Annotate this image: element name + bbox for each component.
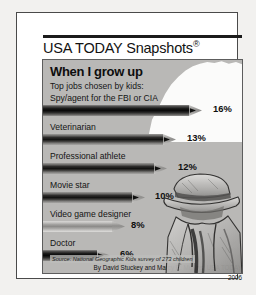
snapshot-page: USA TODAY Snapshots® When I grow up Top … — [0, 0, 256, 295]
chart-panel: When I grow up Top jobs chosen by kids: … — [42, 59, 243, 274]
bar-shaft — [43, 134, 163, 145]
bar-category-label: Movie star — [50, 180, 90, 190]
bar-category-label: Professional athlete — [50, 151, 125, 161]
table-row: Veterinarian 13% — [43, 122, 242, 151]
bar-category-label: Doctor — [50, 238, 75, 248]
brand-rule — [43, 35, 242, 38]
bar-value-label: 8% — [131, 219, 145, 230]
bar-veterinarian — [43, 134, 163, 145]
bar-spy — [43, 105, 189, 116]
registered-mark-icon: ® — [193, 39, 199, 49]
bar-shaft — [43, 163, 154, 174]
byline-year: 2006 — [94, 273, 242, 283]
brand-name: USA TODAY Snapshots — [43, 40, 193, 56]
bar-category-label: Veterinarian — [50, 122, 96, 132]
chart-subtitle: Top jobs chosen by kids: — [50, 81, 144, 91]
bar-value-label: 10% — [155, 190, 174, 201]
infographic-frame: USA TODAY Snapshots® When I grow up Top … — [16, 12, 238, 279]
bar-professional-athlete — [43, 163, 154, 174]
bar-value-label: 13% — [187, 132, 206, 143]
bar-shaft — [43, 221, 112, 232]
bar-category-label: Video game designer — [50, 209, 131, 219]
table-row: Spy/agent for the FBI or CIA 16% — [43, 93, 242, 122]
chart-title: When I grow up — [50, 64, 143, 79]
bar-shaft — [43, 192, 132, 203]
bar-category-label: Spy/agent for the FBI or CIA — [50, 93, 158, 103]
bar-shaft — [43, 105, 189, 116]
chart-source: Source: National Geographic Kids survey … — [50, 255, 195, 263]
bar-movie-star — [43, 192, 132, 203]
pencil-tip-icon — [112, 221, 125, 232]
bar-value-label: 16% — [213, 103, 232, 114]
bar-value-label: 12% — [178, 161, 197, 172]
bar-video-game-designer — [43, 221, 112, 232]
brand-title: USA TODAY Snapshots® — [43, 39, 243, 57]
